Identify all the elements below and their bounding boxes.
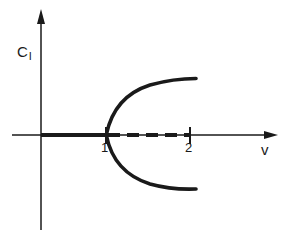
tick-label-1: 1 xyxy=(101,141,108,154)
x-axis-label: v xyxy=(261,142,269,157)
y-axis-label-main: C xyxy=(17,43,28,60)
figure-background xyxy=(0,0,287,241)
plot-canvas xyxy=(0,0,287,241)
bifurcation-diagram-figure: CI v 1 2 xyxy=(0,0,287,241)
y-axis-label-subscript: I xyxy=(29,50,32,62)
tick-label-2: 2 xyxy=(185,141,192,154)
y-axis-label: CI xyxy=(17,44,32,62)
